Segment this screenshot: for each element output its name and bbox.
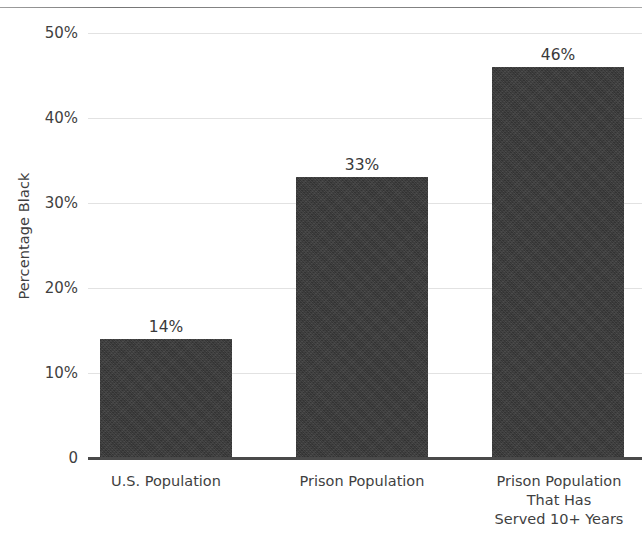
plot-area — [88, 25, 642, 459]
bar-chart-figure: Percentage Black 50% 40% 30% 20% 10% 0 1… — [0, 0, 642, 544]
x-category-line: Prison Population — [476, 472, 642, 491]
page-divider-rule — [0, 7, 642, 8]
x-category-line: That Has — [476, 491, 642, 510]
x-category-label-us-population: U.S. Population — [90, 472, 242, 491]
x-category-line: Served 10+ Years — [476, 510, 642, 529]
y-tick-label-50: 50% — [16, 26, 78, 41]
y-tick-label-30: 30% — [16, 196, 78, 211]
x-category-label-prison-population: Prison Population — [286, 472, 438, 491]
x-category-label-prison-population-10plus-years: Prison Population That Has Served 10+ Ye… — [476, 472, 642, 529]
x-category-line: U.S. Population — [90, 472, 242, 491]
bar-prison-population-10plus-years[interactable] — [492, 67, 624, 458]
y-tick-label-0: 0 — [16, 451, 78, 466]
y-tick-label-10: 10% — [16, 366, 78, 381]
bar-us-population[interactable] — [100, 339, 232, 458]
bar-prison-population[interactable] — [296, 177, 428, 458]
y-tick-label-20: 20% — [16, 281, 78, 296]
gridline-50 — [88, 33, 642, 34]
bar-value-label-prison-population-10plus-years: 46% — [492, 48, 624, 64]
bar-value-label-prison-population: 33% — [296, 158, 428, 174]
x-category-line: Prison Population — [286, 472, 438, 491]
x-axis-baseline — [88, 457, 642, 460]
y-tick-label-40: 40% — [16, 111, 78, 126]
bar-value-label-us-population: 14% — [100, 320, 232, 336]
